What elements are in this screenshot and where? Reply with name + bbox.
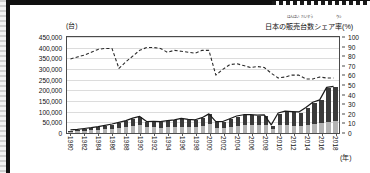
x-axis-tick-label: 1996 xyxy=(179,136,186,151)
x-axis-tickmark xyxy=(280,134,281,136)
x-axis-tick-label: 1990 xyxy=(137,136,144,151)
y-axis-left-tick-label: 350,000 xyxy=(39,55,62,62)
y-axis-right-tick-label: 70 xyxy=(348,62,355,69)
x-axis-tickmark xyxy=(70,134,71,136)
x-axis-tick-label: 2008 xyxy=(262,136,269,151)
x-axis-tick-label: 2002 xyxy=(220,136,227,151)
y-axis-right-tick-label: 50 xyxy=(348,82,355,89)
x-axis-tickmark xyxy=(126,134,127,136)
x-axis-tick-label: 2012 xyxy=(290,136,297,151)
y-axis-left-tick-label: 200,000 xyxy=(39,87,62,94)
x-axis-tickmark xyxy=(322,134,323,136)
x-axis-tick-label: 2018 xyxy=(332,136,339,151)
y-axis-right-tickmark xyxy=(342,46,345,47)
x-axis-tick-label: 2014 xyxy=(304,136,311,151)
x-axis-tickmark xyxy=(224,134,225,136)
x-axis-tick-label: 2010 xyxy=(276,136,283,151)
right-axis-title: 日本のはんばい販売だいすう台数シェアりつ率(%) xyxy=(265,21,353,31)
y-axis-left-tick-label: 100,000 xyxy=(39,108,62,115)
chart-figure: (台) 日本のはんばい販売だいすう台数シェアりつ率(%) 050,000100,… xyxy=(10,5,370,173)
x-axis-tickmark xyxy=(210,134,211,136)
right-axis-title-seg1: 日本の xyxy=(265,22,286,31)
y-axis-right-tick-label: 10 xyxy=(348,120,355,127)
right-axis-title-seg2: はんばい販売 xyxy=(286,21,300,31)
y-axis-right-tickmark xyxy=(342,85,345,86)
x-axis-tickmark xyxy=(294,134,295,136)
furigana-hanbai: はんばい xyxy=(286,16,300,19)
y-axis-right-tickmark xyxy=(342,65,345,66)
y-axis-right-tickmark xyxy=(342,104,345,105)
y-axis-left-tick-label: 400,000 xyxy=(39,44,62,51)
x-axis-tick-label: 2004 xyxy=(234,136,241,151)
x-axis-tickmark xyxy=(84,134,85,136)
x-axis-tickmark xyxy=(140,134,141,136)
x-axis-tickmark xyxy=(98,134,99,136)
y-axis-right: 0102030405060708090100 xyxy=(342,36,368,134)
y-axis-left-tick-label: 300,000 xyxy=(39,66,62,73)
x-axis-tickmark xyxy=(266,134,267,136)
x-axis-tickmark xyxy=(308,134,309,136)
y-axis-left-tick-label: 0 xyxy=(58,130,62,137)
x-axis-tickmark xyxy=(182,134,183,136)
x-axis-tick-label: 1992 xyxy=(151,136,158,151)
y-axis-unit-label: (台) xyxy=(66,20,78,30)
x-axis-tick-label: 2006 xyxy=(248,136,255,151)
y-axis-left-tick-label: 50,000 xyxy=(42,119,62,126)
furigana-daisuu: だいすう xyxy=(300,16,314,19)
x-axis-tickmark xyxy=(168,134,169,136)
x-axis-tick-label: 2016 xyxy=(318,136,325,151)
x-axis-unit-label: (年) xyxy=(340,152,352,162)
y-axis-right-tickmark xyxy=(342,94,345,95)
y-axis-right-tick-label: 100 xyxy=(348,34,359,41)
y-axis-right-tick-label: 20 xyxy=(348,110,355,117)
right-axis-title-seg4: シェア xyxy=(314,22,335,31)
x-axis-tickmark xyxy=(252,134,253,136)
y-axis-right-tick-label: 90 xyxy=(348,43,355,50)
x-axis-tick-label: 1994 xyxy=(165,136,172,151)
right-axis-title-seg6: (%) xyxy=(342,22,353,31)
x-axis-tick-label: 2000 xyxy=(206,136,213,151)
x-axis-tick-label: 1980 xyxy=(67,136,74,151)
x-axis-tick-label: 1986 xyxy=(109,136,116,151)
y-axis-right-tick-label: 80 xyxy=(348,53,355,60)
y-axis-right-tickmark xyxy=(342,75,345,76)
x-axis-tickmark xyxy=(238,134,239,136)
japan-share-rate-line xyxy=(70,47,333,78)
y-axis-right-tick-label: 60 xyxy=(348,72,355,79)
x-axis-tickmark xyxy=(336,134,337,136)
y-axis-right-tickmark xyxy=(342,113,345,114)
y-axis-right-tick-label: 0 xyxy=(348,130,352,137)
x-axis-tick-label: 1998 xyxy=(193,136,200,151)
x-axis: 1980198219841986198819901992199419961998… xyxy=(66,135,340,173)
y-axis-right-tickmark xyxy=(342,123,345,124)
y-axis-right-tick-label: 40 xyxy=(348,91,355,98)
x-axis-tick-label: 1982 xyxy=(81,136,88,151)
x-axis-tick-label: 1984 xyxy=(95,136,102,151)
total-units-line xyxy=(70,86,333,130)
x-axis-tickmark xyxy=(196,134,197,136)
furigana-ritsu: りつ xyxy=(335,16,342,19)
y-axis-right-tickmark xyxy=(342,56,345,57)
line-series-group xyxy=(67,37,339,134)
right-axis-title-seg3: だいすう台数 xyxy=(300,21,314,31)
x-axis-tickmark xyxy=(154,134,155,136)
y-axis-right-tick-label: 30 xyxy=(348,101,355,108)
y-axis-left: 050,000100,000150,000200,000250,000300,0… xyxy=(10,36,64,134)
y-axis-left-tick-label: 450,000 xyxy=(39,34,62,41)
y-axis-left-tick-label: 150,000 xyxy=(39,98,62,105)
y-axis-right-tickmark xyxy=(342,133,345,134)
x-axis-tick-label: 1988 xyxy=(123,136,130,151)
x-axis-tickmark xyxy=(112,134,113,136)
plot-area xyxy=(66,36,340,134)
y-axis-right-tickmark xyxy=(342,37,345,38)
y-axis-left-tick-label: 250,000 xyxy=(39,76,62,83)
right-axis-title-seg5: りつ率 xyxy=(335,21,342,31)
